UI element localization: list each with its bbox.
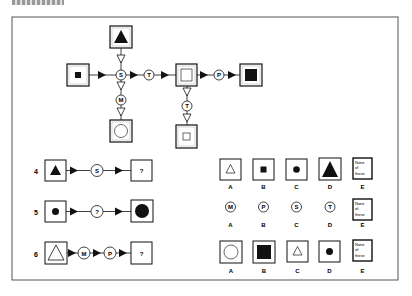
option-4-D[interactable]: D	[319, 158, 341, 190]
option-6-B[interactable]: B	[253, 241, 275, 274]
option-5-E[interactable]: None of these E	[353, 199, 372, 228]
example-box-small-filled-square	[67, 64, 89, 86]
down-arrow-icon	[183, 88, 191, 96]
small-filled-square-icon	[75, 72, 81, 78]
example-box-filled-triangle	[110, 26, 132, 48]
none-of-these-line-3: these	[355, 253, 366, 258]
operator-label: P	[108, 251, 112, 257]
option-letter: E	[360, 222, 364, 228]
options-question-6: A B C D None of these E	[220, 240, 372, 274]
arrow-icon	[228, 71, 236, 79]
operator-label: M	[228, 204, 233, 210]
example-diagram: S T P M	[67, 26, 262, 148]
arrow-icon	[70, 208, 78, 216]
large-outline-circle-icon	[224, 245, 238, 259]
option-6-D[interactable]: D	[319, 241, 340, 274]
operator-label: M	[82, 251, 87, 257]
svg-text:T: T	[185, 103, 189, 109]
example-operator-T: T	[144, 70, 154, 80]
option-5-A[interactable]: M A	[226, 202, 236, 228]
operator-label: S	[95, 168, 99, 174]
arrow-icon	[98, 71, 106, 79]
arrow-icon	[115, 167, 123, 175]
question-4: 4 S ?	[34, 160, 152, 181]
example-operator-T-2: T	[182, 101, 192, 111]
svg-text:S: S	[119, 72, 123, 78]
option-5-B[interactable]: P B	[259, 202, 269, 228]
operator-label: P	[261, 204, 265, 210]
option-5-C[interactable]: S C	[292, 202, 302, 228]
option-letter: D	[328, 184, 333, 190]
arrow-icon	[68, 249, 76, 257]
arrow-icon	[115, 208, 123, 216]
small-outline-square-icon	[183, 133, 190, 140]
large-filled-square-icon	[245, 69, 257, 81]
operator-label: T	[328, 204, 332, 210]
option-letter: A	[229, 268, 234, 274]
svg-text:T: T	[147, 72, 151, 78]
option-letter: D	[327, 268, 332, 274]
option-6-A[interactable]: A	[220, 241, 242, 274]
option-letter: B	[261, 184, 266, 190]
filled-circle-icon	[326, 248, 333, 255]
option-4-C[interactable]: C	[286, 159, 307, 190]
large-filled-square-icon	[257, 245, 271, 259]
option-letter: C	[295, 268, 300, 274]
example-operator-M: M	[116, 95, 126, 105]
puzzle-figure: S T P M	[0, 0, 412, 296]
option-letter: A	[228, 184, 233, 190]
arrow-icon	[119, 249, 127, 257]
arrow-icon	[70, 167, 78, 175]
small-filled-square-icon	[261, 167, 267, 173]
down-arrow-icon	[117, 82, 125, 90]
option-letter: B	[261, 222, 266, 228]
option-letter: B	[262, 268, 267, 274]
option-letter: C	[294, 222, 299, 228]
unknown-mark: ?	[140, 168, 144, 174]
option-6-E[interactable]: None of these E	[353, 240, 372, 274]
question-5: 5 ?	[34, 200, 153, 222]
option-letter: E	[360, 184, 364, 190]
option-4-B[interactable]: B	[253, 159, 274, 190]
question-number: 5	[34, 209, 38, 216]
operator-label: S	[294, 204, 298, 210]
example-operator-P: P	[214, 70, 224, 80]
options-question-5: M A P B S C T D None of thes	[226, 199, 373, 228]
example-box-outline-circle	[110, 120, 132, 142]
unknown-mark: ?	[140, 251, 144, 257]
example-box-outline-square	[176, 64, 197, 86]
options-question-4: A B C D None of these E	[220, 158, 372, 190]
question-number: 6	[34, 251, 38, 258]
option-6-C[interactable]: C	[287, 241, 308, 274]
none-of-these-line-3: these	[355, 171, 366, 176]
option-letter: A	[228, 222, 233, 228]
option-5-D[interactable]: T D	[325, 202, 335, 228]
example-box-large-filled-square	[240, 64, 262, 86]
arrow-icon	[93, 249, 101, 257]
option-4-E[interactable]: None of these E	[353, 158, 372, 190]
svg-text:P: P	[217, 72, 221, 78]
filled-circle-icon	[52, 208, 59, 215]
arrow-icon	[130, 71, 138, 79]
arrow-icon	[200, 71, 208, 79]
option-letter: C	[294, 184, 299, 190]
down-arrow-icon	[117, 108, 125, 116]
arrow-icon	[161, 71, 169, 79]
question-6: 6 M P ?	[34, 242, 152, 264]
unknown-operator: ?	[95, 209, 99, 215]
outline-square-icon	[181, 69, 192, 81]
large-filled-circle-icon	[135, 204, 149, 218]
question-number: 4	[34, 168, 38, 175]
outline-circle-icon	[115, 125, 128, 138]
option-letter: E	[360, 268, 364, 274]
down-arrow-icon	[117, 55, 125, 63]
option-letter: D	[328, 222, 333, 228]
down-arrow-icon	[183, 114, 191, 122]
filled-circle-icon	[293, 166, 300, 173]
example-operator-S: S	[116, 70, 126, 80]
none-of-these-line-3: these	[355, 212, 366, 217]
option-4-A[interactable]: A	[220, 159, 241, 190]
example-box-small-outline-square	[176, 125, 197, 148]
svg-text:M: M	[119, 97, 124, 103]
